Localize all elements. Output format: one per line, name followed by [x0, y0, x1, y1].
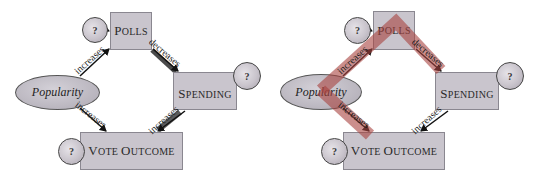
popularity-label: Popularity: [32, 85, 83, 100]
question-mark: ?: [69, 146, 74, 157]
question-circle-vote: ?: [58, 138, 85, 165]
node-spending: SPENDING: [173, 72, 237, 110]
vote-rest1: OTE: [98, 146, 121, 157]
question-mark: ?: [93, 25, 98, 36]
question-circle-polls: ?: [344, 17, 371, 44]
question-mark: ?: [508, 71, 513, 82]
spending-rest: PENDING: [186, 89, 232, 100]
spending-cap: S: [178, 86, 186, 102]
question-circle-polls: ?: [82, 17, 108, 43]
vote-cap1: V: [351, 143, 361, 159]
polls-rest: OLLS: [385, 25, 411, 36]
spending-cap: S: [440, 86, 448, 102]
popularity-label: Popularity: [295, 85, 346, 100]
node-vote-outcome: VOTE OUTCOME: [343, 132, 445, 170]
node-vote-outcome: VOTE OUTCOME: [80, 132, 183, 170]
question-mark: ?: [245, 71, 250, 82]
spending-rest: PENDING: [448, 89, 494, 100]
vote-cap1: V: [88, 143, 98, 159]
diagram-left: POLLS SPENDING VOTE OUTCOME Popularity ?…: [0, 0, 270, 181]
polls-cap: P: [377, 23, 385, 39]
vote-rest1: OTE: [360, 146, 383, 157]
question-circle-vote: ?: [321, 138, 348, 165]
question-mark: ?: [355, 25, 360, 36]
vote-rest2: UTCOME: [131, 146, 175, 157]
vote-rest2: UTCOME: [393, 146, 437, 157]
vote-cap2: O: [121, 143, 131, 159]
vote-cap2: O: [384, 143, 394, 159]
question-circle-spending: ?: [496, 62, 524, 90]
polls-cap: P: [114, 23, 122, 39]
polls-rest: OLLS: [122, 26, 148, 37]
diagram-right: POLLS SPENDING VOTE OUTCOME Popularity ?…: [263, 0, 533, 181]
question-mark: ?: [332, 146, 337, 157]
node-polls: POLLS: [110, 12, 152, 50]
question-circle-spending: ?: [233, 62, 261, 90]
node-spending: SPENDING: [435, 72, 499, 110]
